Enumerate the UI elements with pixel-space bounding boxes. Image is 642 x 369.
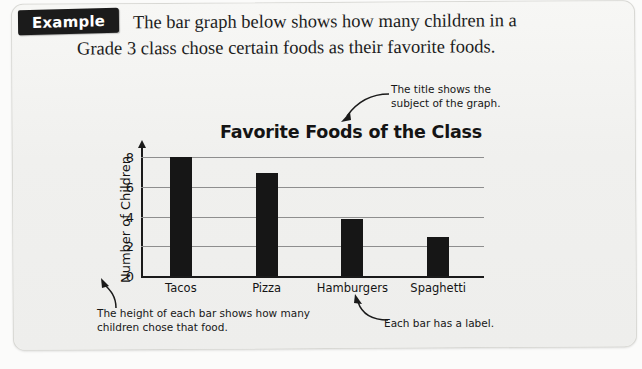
annotation-height-note: The height of each bar shows how many ch… bbox=[97, 307, 327, 335]
x-axis-label: Spaghetti bbox=[410, 281, 466, 295]
y-axis-tick-label: 4 bbox=[126, 209, 134, 224]
gridline bbox=[141, 187, 484, 188]
x-axis-label: Hamburgers bbox=[317, 281, 388, 295]
y-axis-tick-label: 6 bbox=[126, 179, 134, 194]
chart-title: Favorite Foods of the Class bbox=[186, 122, 516, 142]
bar bbox=[256, 173, 278, 276]
y-axis-tick-label: 8 bbox=[126, 150, 134, 165]
intro-paragraph: The bar graph below shows how many child… bbox=[133, 7, 613, 62]
bar bbox=[427, 237, 449, 276]
worksheet-screenshot: Example The bar graph below shows how ma… bbox=[0, 0, 642, 369]
gridline bbox=[141, 157, 484, 158]
gridline bbox=[141, 217, 484, 218]
x-axis-label: Pizza bbox=[252, 281, 281, 295]
y-axis-arrow-icon bbox=[138, 140, 146, 148]
intro-line-2: Grade 3 class chose certain foods as the… bbox=[77, 33, 613, 62]
annotation-title-note: The title shows the subject of the graph… bbox=[391, 83, 521, 111]
y-axis-tick-label: 2 bbox=[126, 239, 134, 254]
bar bbox=[341, 219, 363, 276]
y-axis-line bbox=[141, 145, 143, 276]
bar bbox=[170, 157, 192, 276]
intro-line-1: The bar graph below shows how many child… bbox=[133, 10, 517, 32]
x-axis-label: Tacos bbox=[165, 281, 197, 295]
arrow-to-bar-label-icon bbox=[340, 292, 392, 326]
y-axis-tick-label: 0 bbox=[126, 269, 134, 284]
annotation-label-note: Each bar has a label. bbox=[384, 317, 534, 331]
plot-area: 02468 TacosPizzaHamburgersSpaghetti bbox=[141, 157, 484, 276]
example-badge: Example bbox=[18, 8, 119, 36]
x-axis-line bbox=[141, 276, 484, 278]
example-badge-label: Example bbox=[18, 8, 119, 36]
